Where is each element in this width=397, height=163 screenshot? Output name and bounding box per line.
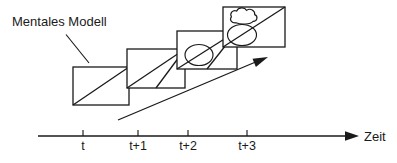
axis-tick-label: t+3 bbox=[238, 139, 256, 153]
diagonal-arrow-icon bbox=[253, 57, 269, 67]
diagram-canvas: Mentales Modell t bbox=[0, 0, 397, 163]
axis-tick-label: t+2 bbox=[179, 139, 197, 153]
frame-t3 bbox=[223, 7, 285, 47]
axis-title: Zeit bbox=[364, 129, 386, 144]
time-axis: t t+1 t+2 t+3 Zeit bbox=[38, 129, 386, 153]
frame-t1 bbox=[127, 49, 185, 88]
axis-arrow-icon bbox=[345, 131, 359, 141]
axis-tick: t+1 bbox=[129, 130, 147, 153]
axis-tick-label: t bbox=[81, 139, 85, 153]
leader-line-icon bbox=[66, 35, 89, 64]
frame-t bbox=[73, 67, 129, 105]
axis-tick-label: t+1 bbox=[129, 139, 147, 153]
axis-tick: t+2 bbox=[179, 130, 197, 153]
axis-tick: t bbox=[81, 130, 85, 153]
axis-tick: t+3 bbox=[238, 130, 256, 153]
annotation-label: Mentales Modell bbox=[12, 14, 107, 29]
